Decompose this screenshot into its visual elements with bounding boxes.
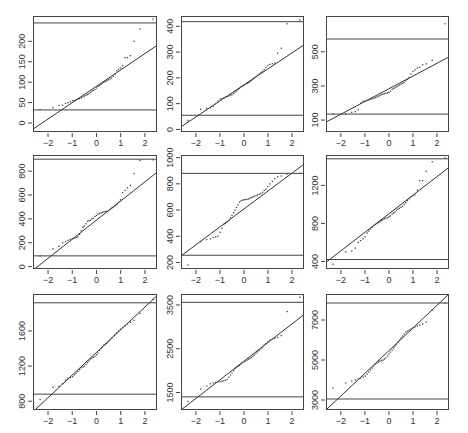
x-tick-label: 1 [118, 416, 123, 426]
x-tick-label: 1 [265, 416, 270, 426]
data-point [251, 357, 252, 358]
data-point [397, 85, 398, 86]
data-point [72, 100, 73, 101]
data-point [390, 90, 391, 91]
data-point [299, 296, 300, 297]
data-point [345, 251, 346, 252]
data-point [388, 92, 389, 93]
y-tick-label: 5000 [310, 350, 320, 370]
y-axis: 80012001600 [17, 321, 32, 409]
x-axis: −2−1012 [43, 133, 148, 148]
data-point [65, 241, 66, 242]
data-point [281, 48, 282, 49]
x-tick-label: 2 [142, 138, 147, 148]
data-point [65, 103, 66, 104]
data-point [257, 351, 258, 352]
data-point [133, 320, 134, 321]
x-tick-label: −1 [215, 275, 225, 285]
data-point [426, 171, 427, 172]
data-point [272, 338, 273, 339]
data-point [274, 62, 275, 63]
x-axis: −2−1012 [43, 411, 148, 426]
data-point [419, 324, 420, 325]
data-point [228, 95, 229, 96]
x-tick-label: −1 [215, 138, 225, 148]
data-point [345, 113, 346, 114]
data-point [87, 362, 88, 363]
data-point [267, 341, 268, 342]
data-point [67, 378, 68, 379]
data-point [444, 23, 445, 24]
y-tick-label: 3000 [310, 390, 320, 410]
x-tick-label: 1 [265, 138, 270, 148]
data-point [262, 71, 263, 72]
y-tick-label: 800 [165, 176, 175, 191]
data-point [376, 362, 377, 363]
y-tick-label: 0 [17, 264, 27, 269]
data-point [85, 223, 86, 224]
data-point [234, 368, 235, 369]
data-point [378, 222, 379, 223]
data-point [221, 228, 222, 229]
qq-plot-canvas: −2−1012050100150200−2−10120100200300400−… [0, 0, 468, 433]
data-point [281, 175, 282, 176]
data-point [245, 360, 246, 361]
data-point [432, 161, 433, 162]
data-point [225, 380, 226, 381]
data-point [105, 343, 106, 344]
data-point [234, 91, 235, 92]
data-point [265, 188, 266, 189]
data-point [277, 176, 278, 177]
data-point [402, 206, 403, 207]
data-point [366, 373, 367, 374]
data-point [200, 109, 201, 110]
data-point [116, 204, 117, 205]
data-point [111, 208, 112, 209]
qq-panel-row3-col3: −2−1012300050007000 [310, 294, 449, 426]
data-point [115, 334, 116, 335]
data-point [332, 387, 333, 388]
data-point [210, 383, 211, 384]
data-point [269, 339, 270, 340]
data-point [52, 387, 53, 388]
data-point [90, 92, 91, 93]
data-point [254, 77, 255, 78]
data-point [79, 98, 80, 99]
plot-area [33, 296, 157, 412]
data-point [106, 343, 107, 344]
data-point [251, 197, 252, 198]
panel-frame [34, 295, 157, 410]
data-point [130, 185, 131, 186]
data-point [187, 401, 188, 402]
data-point [77, 99, 78, 100]
data-point [252, 356, 253, 357]
data-point [233, 93, 234, 94]
y-tick-label: 400 [17, 211, 27, 226]
plot-area [326, 294, 449, 410]
data-point [152, 299, 153, 300]
data-point [412, 327, 413, 328]
y-axis: 300050007000 [310, 310, 325, 410]
y-tick-label: 150 [17, 54, 27, 69]
data-point [258, 73, 259, 74]
data-point [97, 86, 98, 87]
y-tick-label: 600 [17, 187, 27, 202]
data-point [231, 372, 232, 373]
data-point [426, 321, 427, 322]
data-point [385, 218, 386, 219]
data-point [84, 365, 85, 366]
data-point [373, 365, 374, 366]
data-point [299, 173, 300, 174]
x-tick-label: −1 [67, 275, 77, 285]
data-point [93, 357, 94, 358]
data-point [227, 221, 228, 222]
data-point [118, 330, 119, 331]
x-tick-label: 0 [94, 275, 99, 285]
data-point [393, 212, 394, 213]
data-point [215, 236, 216, 237]
qq-panel-row3-col1: −2−101280012001600 [17, 295, 157, 427]
data-point [366, 232, 367, 233]
data-point [93, 90, 94, 91]
data-point [372, 367, 373, 368]
data-point [405, 80, 406, 81]
